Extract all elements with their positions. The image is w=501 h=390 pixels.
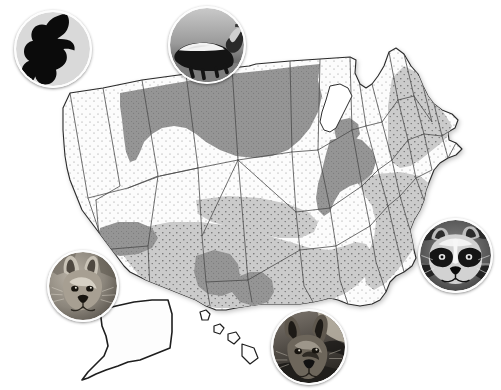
raccoon-graphic xyxy=(420,220,491,291)
gray-fox-photo[interactable] xyxy=(47,250,119,322)
raccoon-photo[interactable] xyxy=(418,218,493,293)
skunk-graphic xyxy=(170,8,244,82)
photo-image-raccoon xyxy=(420,220,491,291)
gray-fox-graphic xyxy=(49,252,117,320)
shaded-region-california-central-valley[interactable] xyxy=(24,138,60,230)
wolf-howling-silhouette-photo[interactable] xyxy=(14,10,92,88)
wolf-silhouette-graphic xyxy=(16,12,90,86)
hawaii-inset[interactable] xyxy=(200,310,258,364)
non-contiguous-insets xyxy=(82,300,258,380)
map-figure: Grayscale map of the United States showi… xyxy=(0,0,501,390)
coyote-photo[interactable] xyxy=(271,309,347,385)
photo-image-fox xyxy=(49,252,117,320)
photo-image-coyote xyxy=(273,311,345,383)
state-border-44 xyxy=(150,284,156,290)
striped-skunk-photo[interactable] xyxy=(168,6,246,84)
photo-image-skunk xyxy=(170,8,244,82)
coyote-graphic xyxy=(273,311,345,383)
photo-image-wolf xyxy=(16,12,90,86)
